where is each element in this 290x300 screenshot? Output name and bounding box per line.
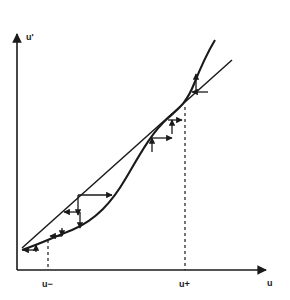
diagonal-identity-line — [22, 60, 232, 248]
diagram-canvas: u' u — [0, 0, 290, 300]
curves-group — [22, 40, 232, 250]
tick-label-u-minus: u− — [42, 279, 53, 289]
axes-group: u' u — [17, 32, 273, 288]
tick-label-u-plus: u+ — [179, 279, 190, 289]
x-axis-label: u — [267, 278, 273, 288]
guide-lines-group — [48, 107, 185, 270]
tick-labels-group: u− u+ — [42, 279, 190, 289]
y-axis-label: u' — [26, 32, 34, 42]
cobweb-arrows-group — [23, 74, 208, 252]
cobweb-diagram: u' u — [0, 0, 290, 300]
response-curve — [22, 40, 215, 250]
